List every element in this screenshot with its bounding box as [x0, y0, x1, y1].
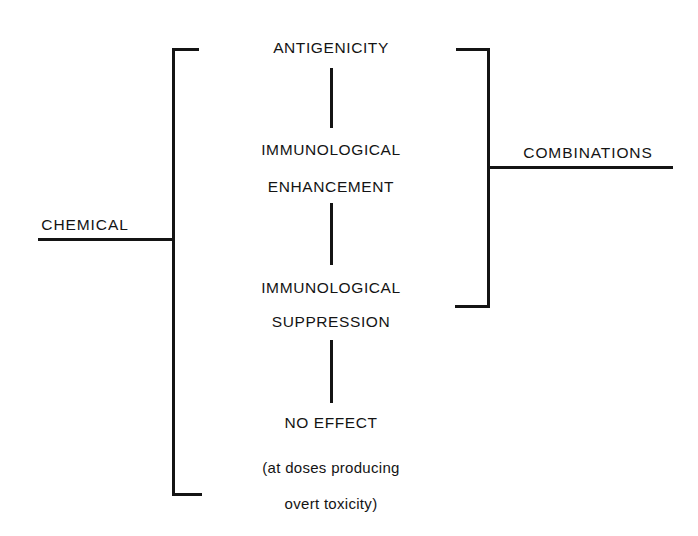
connector-suppression-to-no-effect [330, 340, 333, 403]
left-bracket-top-arm [172, 48, 199, 51]
connector-antigenicity-to-enhancement [330, 68, 333, 128]
left-bracket-bottom-arm [172, 493, 202, 496]
left-bracket-spine [172, 48, 175, 496]
right-bracket-bottom-arm [455, 305, 490, 308]
combinations-underline [487, 166, 673, 169]
node-immunological-enhancement-line2: ENHANCEMENT [268, 179, 394, 195]
diagram-canvas: CHEMICAL COMBINATIONS ANTIGENICITY IMMUN… [0, 0, 698, 536]
chemical-underline [38, 238, 174, 241]
connector-enhancement-to-suppression [330, 203, 333, 265]
node-antigenicity: ANTIGENICITY [273, 40, 389, 56]
node-immunological-enhancement-line1: IMMUNOLOGICAL [261, 142, 401, 158]
right-bracket-top-arm [456, 48, 490, 51]
node-immunological-suppression-line2: SUPPRESSION [272, 314, 391, 330]
chemical-label: CHEMICAL [41, 217, 128, 233]
combinations-label: COMBINATIONS [523, 145, 652, 161]
right-bracket-spine [487, 48, 490, 308]
node-no-effect-qualifier-line1: (at doses producing [262, 460, 399, 475]
node-immunological-suppression-line1: IMMUNOLOGICAL [261, 280, 401, 296]
node-no-effect-qualifier-line2: overt toxicity) [285, 496, 378, 511]
node-no-effect: NO EFFECT [284, 415, 377, 431]
